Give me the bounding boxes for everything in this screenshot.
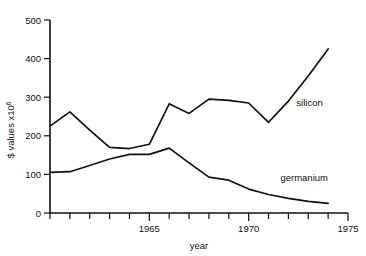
y-axis-title-text: $ values x10 <box>5 105 16 158</box>
y-tick-label: 0 <box>36 208 41 219</box>
y-tick-label: 400 <box>25 53 41 64</box>
chart-container: 0 100 200 300 400 500 <box>0 0 366 256</box>
series-label-silicon: silicon <box>296 97 322 108</box>
line-chart: 0 100 200 300 400 500 <box>0 0 366 256</box>
y-axis-tick-labels: 0 100 200 300 400 500 <box>25 15 41 219</box>
series-label-germanium: germanium <box>280 172 328 183</box>
y-axis-title: $ values x106 <box>5 101 17 158</box>
x-tick-label: 1965 <box>139 223 160 234</box>
x-axis-title: year <box>190 240 208 251</box>
y-tick-label: 200 <box>25 130 41 141</box>
y-tick-label: 500 <box>25 15 41 26</box>
y-axis-ticks <box>44 20 50 213</box>
y-axis-title-exponent: 6 <box>5 101 12 105</box>
svg-text:$ values x106: $ values x106 <box>5 101 17 158</box>
x-tick-label: 1975 <box>337 223 358 234</box>
y-tick-label: 100 <box>25 169 41 180</box>
series-line-silicon <box>50 49 328 149</box>
x-tick-label: 1970 <box>238 223 259 234</box>
x-axis-ticks <box>50 213 348 221</box>
y-tick-label: 300 <box>25 92 41 103</box>
x-axis-tick-labels: 1965 1970 1975 <box>139 223 359 234</box>
